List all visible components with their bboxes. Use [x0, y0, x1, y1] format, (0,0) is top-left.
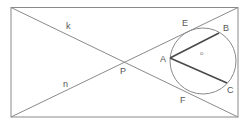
label-b: B	[223, 23, 229, 33]
chord-ac	[170, 58, 227, 83]
label-e: E	[182, 18, 188, 28]
center-marker: o	[200, 50, 204, 56]
label-k: k	[66, 21, 71, 31]
label-p: P	[120, 66, 126, 76]
label-c: C	[227, 85, 234, 95]
geometry-diagram: o k n P A B C E F	[0, 0, 251, 125]
label-a: A	[160, 54, 166, 64]
label-n: n	[63, 79, 68, 89]
label-f: F	[180, 95, 186, 105]
